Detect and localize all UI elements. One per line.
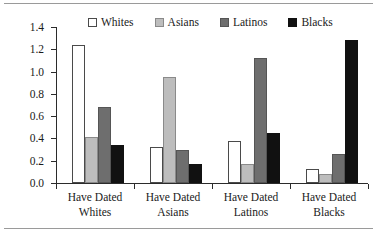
x-axis-tick [56,184,57,189]
y-axis-tick-label: 0.0 [30,175,44,191]
bar-group [72,27,124,183]
y-axis-tick-label: 0.8 [30,86,44,102]
y-axis-tick-label: 1.4 [30,19,44,35]
x-axis-tick [368,184,369,189]
legend-swatch-latinos-icon [220,18,229,27]
x-axis-group-label-line1: Have Dated [212,190,290,205]
bottom-divider-rule [4,228,373,229]
bar-whites-1 [72,45,85,183]
bar-latinos-1 [98,107,111,183]
bar-asians-1 [85,137,98,183]
bar-blacks-2 [189,164,202,183]
legend-swatch-whites-icon [88,18,97,27]
x-axis-group-label: Have DatedLatinos [212,190,290,220]
y-axis-tick: 0.8 [51,94,56,95]
y-axis-tick-label: 1.2 [30,41,44,57]
x-axis-group-label: Have DatedBlacks [290,190,368,220]
bar-blacks-4 [345,40,358,183]
bar-asians-2 [163,77,176,183]
y-axis-tick-label: 1.0 [30,64,44,80]
y-axis-tick: 0.4 [51,138,56,139]
x-axis-tick [212,184,213,189]
y-axis-line [56,27,57,183]
bar-group [306,27,358,183]
x-axis-tick [134,184,135,189]
bar-blacks-1 [111,145,124,183]
bar-group [150,27,202,183]
x-axis-group-label-line2: Whites [56,205,134,220]
x-axis-group-label: Have DatedWhites [56,190,134,220]
x-axis-group-label-line1: Have Dated [56,190,134,205]
top-divider-rule [4,3,373,4]
y-axis-tick: 1.4 [51,27,56,28]
x-axis-group-label-line2: Blacks [290,205,368,220]
x-axis-tick [290,184,291,189]
y-axis-tick-label: 0.4 [30,130,44,146]
x-axis-group-label: Have DatedAsians [134,190,212,220]
x-axis-group-label-line2: Latinos [212,205,290,220]
bar-whites-2 [150,147,163,183]
x-axis-group-label-line1: Have Dated [290,190,368,205]
legend-swatch-asians-icon [155,18,164,27]
bar-whites-3 [228,141,241,183]
x-axis-group-label-line1: Have Dated [134,190,212,205]
y-axis-tick-label: 0.2 [30,153,44,169]
bar-asians-4 [319,174,332,183]
bar-asians-3 [241,164,254,183]
bar-latinos-4 [332,154,345,183]
bar-chart-figure: Whites Asians Latinos Blacks Mean Level … [0,0,377,234]
bar-group [228,27,280,183]
plot-area: 0.00.20.40.60.81.01.21.4 [56,27,368,183]
bar-whites-4 [306,169,319,183]
bar-latinos-3 [254,58,267,183]
y-axis-tick: 1.2 [51,49,56,50]
y-axis-tick: 0.2 [51,161,56,162]
bar-blacks-3 [267,133,280,183]
bar-latinos-2 [176,150,189,183]
y-axis-tick: 1.0 [51,72,56,73]
x-axis-group-label-line2: Asians [134,205,212,220]
y-axis-tick: 0.6 [51,116,56,117]
legend-swatch-blacks-icon [288,18,297,27]
y-axis-tick-label: 0.6 [30,108,44,124]
